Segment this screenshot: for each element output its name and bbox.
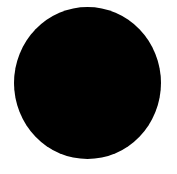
canvas: [0, 0, 177, 174]
black-circle: [14, 7, 161, 159]
